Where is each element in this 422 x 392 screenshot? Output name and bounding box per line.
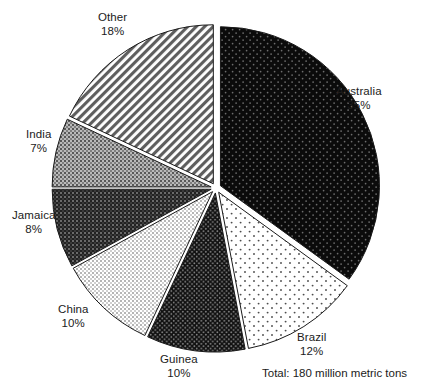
slice-label-value: 10% <box>160 366 198 380</box>
slice-label-name: Guinea <box>160 352 198 366</box>
slice-label-value: 7% <box>26 141 51 155</box>
chart-total-annotation: Total: 180 million metric tons <box>262 366 407 380</box>
slice-label-name: Jamaica <box>12 208 56 222</box>
slice-label-value: 18% <box>98 24 127 38</box>
slice-label-other: Other 18% <box>98 10 127 38</box>
slice-label-australia: Australia 35% <box>336 84 382 112</box>
slice-label-jamaica: Jamaica 8% <box>12 208 56 236</box>
slice-label-name: Australia <box>336 84 382 98</box>
slice-label-name: Brazil <box>297 330 326 344</box>
slice-label-india: India 7% <box>26 127 51 155</box>
slice-label-china: China 10% <box>58 302 89 330</box>
slice-label-value: 35% <box>336 98 382 112</box>
slice-label-value: 10% <box>58 316 89 330</box>
slice-label-value: 12% <box>297 344 326 358</box>
pie-slices <box>52 25 379 352</box>
slice-label-guinea: Guinea 10% <box>160 352 198 380</box>
slice-label-brazil: Brazil 12% <box>297 330 326 358</box>
slice-label-value: 8% <box>12 222 56 236</box>
slice-label-name: India <box>26 127 51 141</box>
slice-label-name: Other <box>98 10 127 24</box>
pie-chart: Australia 35% Brazil 12% Guinea 10% Chin… <box>0 0 422 392</box>
pie-chart-canvas <box>0 0 422 392</box>
slice-label-name: China <box>58 302 89 316</box>
